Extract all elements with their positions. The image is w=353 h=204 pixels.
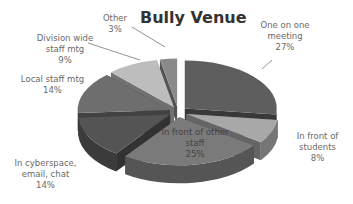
label-local-staff: Local staff mtg 14% (15, 74, 90, 96)
label-cyberspace: In cyberspace, email, chat 14% (8, 158, 83, 191)
label-front-students: In front of students 8% (290, 131, 345, 164)
leader-line (132, 27, 165, 47)
label-front-staff: In front of other staff 25% (155, 127, 235, 160)
label-one-on-one: One on one meeting 27% (250, 20, 320, 53)
label-division-wide: Division wide staff mtg 9% (30, 33, 100, 66)
leader-line (262, 60, 272, 69)
label-other: Other 3% (95, 13, 135, 35)
